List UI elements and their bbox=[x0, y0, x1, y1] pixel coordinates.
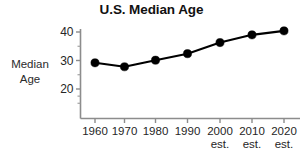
x-tick-sublabel: est. bbox=[275, 138, 294, 150]
chart-plot-area: 203040 19601970198019902000est.2010est.2… bbox=[0, 0, 303, 154]
x-axis bbox=[81, 119, 301, 124]
x-tick-label: 1960 bbox=[82, 125, 108, 137]
x-tick-label: 2010 bbox=[239, 125, 265, 137]
y-tick-label: 20 bbox=[60, 82, 74, 96]
y-tick-label: 30 bbox=[60, 54, 74, 68]
data-point-marker bbox=[248, 31, 256, 39]
cropped-caption bbox=[60, 148, 250, 154]
data-point-marker bbox=[91, 59, 99, 67]
x-tick-label: 1970 bbox=[112, 125, 138, 137]
y-axis: 203040 bbox=[60, 25, 80, 118]
y-tick-label: 40 bbox=[60, 25, 74, 39]
x-tick-label: 1990 bbox=[175, 125, 201, 137]
x-tick-label: 2020 bbox=[271, 125, 297, 137]
data-series-median-age bbox=[91, 27, 288, 71]
data-point-marker bbox=[151, 56, 159, 64]
x-tick-label: 2000 bbox=[207, 125, 233, 137]
data-point-marker bbox=[183, 50, 191, 58]
data-point-marker bbox=[120, 63, 128, 71]
chart-figure: U.S. Median Age Median Age 203040 196019… bbox=[0, 0, 303, 154]
x-tick-labels: 19601970198019902000est.2010est.2020est. bbox=[82, 125, 297, 150]
data-point-marker bbox=[280, 27, 288, 35]
data-point-marker bbox=[216, 38, 224, 46]
x-tick-label: 1980 bbox=[143, 125, 169, 137]
